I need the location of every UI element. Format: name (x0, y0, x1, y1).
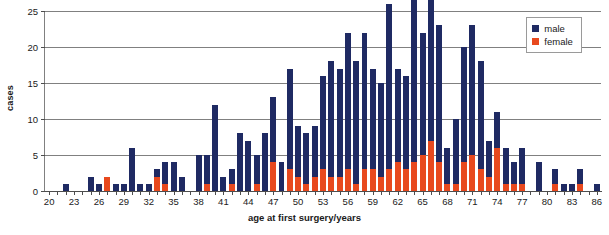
bar-segment-male (237, 133, 243, 191)
x-axis-tick-mark (530, 192, 531, 195)
bar-segment-female (370, 169, 376, 191)
bar-group (121, 11, 127, 191)
bar-segment-female (320, 169, 326, 191)
x-axis-tick-mark (506, 192, 507, 195)
x-axis-tick-mark (298, 192, 299, 195)
bar-group (229, 11, 235, 191)
x-axis-tick-mark (398, 192, 399, 195)
x-axis-tick-mark (306, 192, 307, 195)
bar-segment-female (478, 169, 484, 191)
x-axis-tick-mark (66, 192, 67, 195)
bar-group (320, 11, 326, 191)
bar-segment-male (113, 184, 119, 191)
bar-segment-female (469, 155, 475, 191)
bar-segment-female (312, 177, 318, 191)
x-axis-tick-mark (389, 192, 390, 195)
bar-segment-female (436, 162, 442, 191)
bar-stack (88, 177, 94, 191)
bar-stack (179, 177, 185, 191)
bar-stack (96, 184, 102, 191)
x-axis-tick-mark (589, 192, 590, 195)
x-axis-tick-mark (140, 192, 141, 195)
bar-segment-male (129, 148, 135, 191)
x-axis-tick-mark (373, 192, 374, 195)
bar-segment-male (121, 184, 127, 191)
bar-segment-male (370, 69, 376, 170)
x-axis-tick-label: 47 (268, 196, 279, 207)
bar-group (345, 11, 351, 191)
bar-stack (320, 76, 326, 191)
bar-segment-male (154, 169, 160, 176)
bar-segment-male (179, 177, 185, 191)
bar-segment-male (229, 169, 235, 183)
x-axis-tick-label: 53 (318, 196, 329, 207)
legend-label: male (544, 23, 565, 34)
bar-stack (444, 148, 450, 191)
bar-group (337, 11, 343, 191)
x-axis-tick-label: 20 (44, 196, 55, 207)
bar-stack (577, 169, 583, 191)
x-axis-tick-mark (331, 192, 332, 195)
bar-group (196, 11, 202, 191)
x-axis-tick-label: 44 (243, 196, 254, 207)
bar-group (162, 11, 168, 191)
x-axis-tick-mark (207, 192, 208, 195)
bar-group (461, 11, 467, 191)
bar-segment-male (594, 184, 600, 191)
bar-segment-male (494, 112, 500, 148)
x-axis-tick-label: 23 (69, 196, 80, 207)
x-axis-tick-mark (82, 192, 83, 195)
bar-segment-female (295, 177, 301, 191)
x-axis-tick-label: 65 (417, 196, 428, 207)
bar-stack (220, 177, 226, 191)
bar-series-group (45, 11, 601, 191)
bar-segment-male (312, 126, 318, 176)
x-axis-tick-mark (215, 192, 216, 195)
bar-segment-female (204, 184, 210, 191)
x-axis-tick-label: 50 (293, 196, 304, 207)
bar-segment-male (403, 76, 409, 170)
bar-segment-male (453, 119, 459, 184)
legend-item: male (532, 22, 573, 35)
bar-segment-male (386, 4, 392, 170)
bar-group (204, 11, 210, 191)
bar-group (420, 11, 426, 191)
x-axis-tick-mark (431, 192, 432, 195)
bar-segment-female (494, 148, 500, 191)
bar-stack (453, 119, 459, 191)
bar-segment-female (552, 184, 558, 191)
x-axis-tick-mark (248, 192, 249, 195)
x-axis-tick-mark (580, 192, 581, 195)
x-axis-tick-mark (315, 192, 316, 195)
bar-stack (594, 184, 600, 191)
legend-swatch-male (532, 25, 539, 32)
bar-stack (262, 133, 268, 191)
bar-stack (137, 184, 143, 191)
x-axis-tick-label: 74 (492, 196, 503, 207)
bar-stack (154, 169, 160, 191)
bar-stack (378, 83, 384, 191)
x-axis-tick-mark (57, 192, 58, 195)
bar-segment-male (245, 141, 251, 191)
bar-group (303, 11, 309, 191)
bar-stack (270, 97, 276, 191)
x-axis-tick-label: 35 (168, 196, 179, 207)
bar-segment-female (486, 177, 492, 191)
bar-stack (295, 126, 301, 191)
bar-segment-male (353, 61, 359, 183)
bar-group (279, 11, 285, 191)
bar-segment-male (320, 76, 326, 170)
bar-segment-female (162, 184, 168, 191)
bar-segment-female (411, 162, 417, 191)
bar-stack (113, 184, 119, 191)
x-axis-tick-mark (514, 192, 515, 195)
bar-segment-female (395, 162, 401, 191)
x-axis-tick-mark (356, 192, 357, 195)
x-axis-tick-mark (232, 192, 233, 195)
x-axis-tick-mark (348, 192, 349, 195)
bar-segment-female (229, 184, 235, 191)
bar-stack (536, 162, 542, 191)
bar-group (386, 11, 392, 191)
bar-segment-male (345, 33, 351, 170)
bar-stack (370, 69, 376, 191)
